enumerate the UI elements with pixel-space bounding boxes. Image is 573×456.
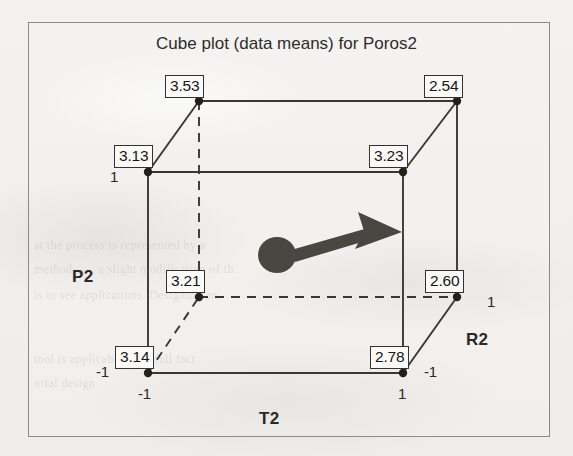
- tick-r2-high: 1: [487, 293, 495, 310]
- vertex-front-top-right: [399, 168, 407, 176]
- cube-plot-graphic: [0, 0, 573, 456]
- edge-depth-bot-right: [403, 297, 457, 373]
- annotation-dot: [258, 237, 296, 273]
- edge-depth-top-right: [403, 101, 457, 172]
- vertex-back-top-right: [453, 97, 461, 105]
- vertex-back-top-left: [195, 97, 203, 105]
- vertex-back-bot-left: [195, 293, 203, 301]
- value-label-back-bot-left: 3.21: [166, 270, 205, 293]
- value-label-back-bot-right: 2.60: [425, 270, 464, 293]
- tick-p2-low: -1: [96, 363, 109, 380]
- vertex-front-top-left: [144, 168, 152, 176]
- tick-t2-high: 1: [398, 385, 406, 402]
- vertex-back-bot-right: [453, 293, 461, 301]
- tick-p2-high: 1: [110, 168, 118, 185]
- value-label-front-top-right: 3.23: [369, 145, 408, 168]
- value-label-front-top-left: 3.13: [114, 145, 153, 168]
- axis-label-t2: T2: [259, 409, 279, 429]
- edge-depth-top-left: [148, 101, 199, 172]
- edge-depth-bot-left-hidden: [148, 297, 199, 373]
- value-label-back-top-right: 2.54: [424, 75, 463, 98]
- vertex-front-bot-left: [144, 369, 152, 377]
- value-label-front-bot-right: 2.78: [370, 346, 409, 369]
- vertex-dots: [144, 97, 461, 377]
- annotation-arrow: [258, 212, 402, 273]
- axis-label-r2: R2: [466, 330, 488, 350]
- axis-label-p2: P2: [72, 267, 93, 287]
- tick-t2-low: -1: [138, 385, 151, 402]
- value-label-back-top-left: 3.53: [165, 75, 204, 98]
- value-label-front-bot-left: 3.14: [115, 346, 154, 369]
- tick-r2-low: -1: [424, 363, 437, 380]
- vertex-front-bot-right: [399, 369, 407, 377]
